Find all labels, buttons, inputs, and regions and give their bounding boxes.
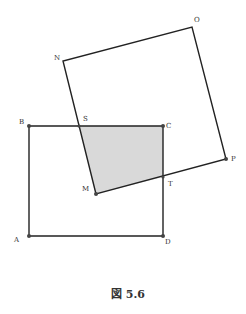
label-T: T [168,180,173,188]
figure-caption: 図 5.6 [111,287,145,301]
label-M: M [82,185,89,193]
point-P [224,157,228,161]
point-B [27,124,31,128]
label-S: S [83,115,88,123]
label-O: O [194,16,200,24]
label-B: B [19,118,24,126]
geometry-figure: A B C D M N O P S T 図 5.6 [0,0,246,314]
label-N: N [54,54,60,62]
label-C: C [166,122,171,130]
point-T [161,175,164,178]
label-P: P [231,155,236,163]
point-M [94,192,98,196]
point-A [27,234,31,238]
point-C [161,124,165,128]
label-D: D [165,238,171,246]
point-S [77,124,80,127]
shaded-region-SCTM [79,126,163,194]
label-A: A [13,236,20,244]
